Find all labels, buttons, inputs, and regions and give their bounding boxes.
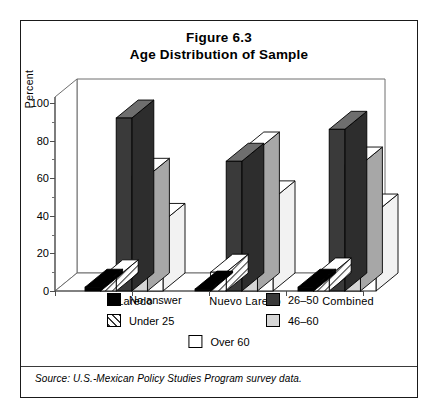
legend-entry-26-50: 26–50 <box>266 293 319 306</box>
legend-row-1: No answer 26–50 <box>21 293 417 314</box>
legend-row-3: Over 60 <box>21 335 417 356</box>
plot-area: 020406080100 CombinedNuevo LaredoLaredo <box>55 79 385 291</box>
legend-entry-under-25: Under 25 <box>107 314 174 327</box>
legend-label-over-60: Over 60 <box>210 336 249 348</box>
legend-entry-46-60: 46–60 <box>266 314 319 327</box>
black-swatch-icon <box>107 293 121 306</box>
legend-label-no-answer: No answer <box>129 294 182 306</box>
y-tick-mark <box>50 103 55 104</box>
y-minor-tick-mark <box>52 159 55 160</box>
title-line-1: Figure 6.3 <box>21 29 417 46</box>
title-line-2: Age Distribution of Sample <box>21 46 417 63</box>
legend-label-46-60: 46–60 <box>288 315 319 327</box>
dark-gray-swatch-icon <box>266 293 280 306</box>
legend-label-under-25: Under 25 <box>129 315 174 327</box>
legend-row-2: Under 25 46–60 <box>21 314 417 335</box>
legend-entry-no-answer: No answer <box>107 293 182 306</box>
y-minor-tick-mark <box>52 122 55 123</box>
y-tick-mark <box>50 253 55 254</box>
legend-entry-over-60: Over 60 <box>188 335 249 348</box>
y-tick-mark <box>50 178 55 179</box>
source-divider <box>21 366 417 367</box>
figure-frame: Figure 6.3 Age Distribution of Sample Pe… <box>20 20 418 398</box>
y-tick-mark <box>50 216 55 217</box>
light-gray-swatch-icon <box>266 314 280 327</box>
y-tick-label: 100 <box>31 98 49 109</box>
y-tick-label: 80 <box>37 135 49 146</box>
bars-layer <box>55 79 385 291</box>
bars-svg <box>55 79 385 291</box>
y-minor-tick-mark <box>52 272 55 273</box>
hatched-swatch-icon <box>107 314 121 327</box>
y-minor-tick-mark <box>52 235 55 236</box>
y-minor-tick-mark <box>52 197 55 198</box>
figure-title: Figure 6.3 Age Distribution of Sample <box>21 29 417 63</box>
chart-legend: No answer 26–50 Under 25 46–60 Over 60 <box>21 293 417 356</box>
y-tick-mark <box>50 141 55 142</box>
source-note: Source: U.S.-Mexican Policy Studies Prog… <box>35 373 302 384</box>
white-swatch-icon <box>188 335 202 348</box>
y-tick-label: 40 <box>37 210 49 221</box>
y-tick-label: 20 <box>37 248 49 259</box>
legend-label-26-50: 26–50 <box>288 294 319 306</box>
y-tick-label: 60 <box>37 173 49 184</box>
y-axis-label: Percent <box>23 49 35 129</box>
